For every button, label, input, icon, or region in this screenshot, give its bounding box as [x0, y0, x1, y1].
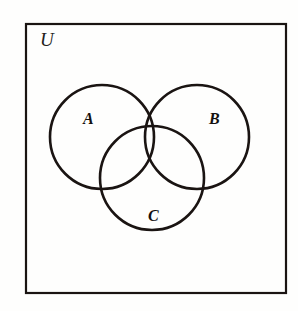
set-label-a: A [83, 111, 94, 127]
set-label-c: C [148, 208, 159, 224]
universal-set-rectangle [26, 24, 286, 293]
set-label-b: B [209, 111, 220, 127]
universal-set-label: U [40, 30, 54, 49]
set-circle-a [50, 85, 154, 189]
set-circle-b [145, 85, 249, 189]
venn-diagram-figure: U A B C [0, 0, 298, 311]
